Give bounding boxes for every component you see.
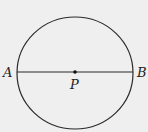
label-a: A xyxy=(2,65,12,80)
label-p: P xyxy=(69,77,79,92)
label-b: B xyxy=(136,65,147,80)
center-point-p xyxy=(73,70,77,74)
circle-diagram: A B P xyxy=(0,0,148,132)
diagram-canvas: A B P xyxy=(0,0,148,132)
